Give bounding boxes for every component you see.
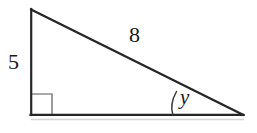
angle-arc-marker-icon [172, 92, 177, 115]
geometry-diagram: 5 8 y [0, 0, 257, 133]
angle-label: y [180, 87, 189, 108]
hypotenuse-label: 8 [129, 24, 140, 46]
right-angle-marker-icon [32, 94, 52, 115]
vertical-leg-label: 5 [8, 51, 19, 73]
triangle-figure [0, 0, 257, 133]
